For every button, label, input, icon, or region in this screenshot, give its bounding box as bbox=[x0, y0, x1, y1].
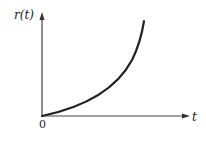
x-axis-label: t bbox=[192, 110, 197, 124]
y-axis-arrow-icon bbox=[40, 12, 45, 20]
signal-plot: r(t) t 0 bbox=[0, 0, 206, 143]
r-curve bbox=[42, 21, 144, 116]
y-axis-label: r(t) bbox=[14, 8, 34, 22]
origin-label: 0 bbox=[39, 118, 46, 131]
x-axis-arrow-icon bbox=[182, 114, 190, 119]
